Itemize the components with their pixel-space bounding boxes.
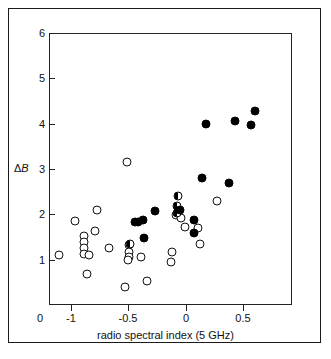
data-point-open-circle <box>195 239 204 248</box>
y-axis-title: ΔB <box>14 162 29 174</box>
data-point-open-circle <box>168 247 177 256</box>
data-point-open-circle <box>92 206 101 215</box>
data-point-open-circle <box>143 276 152 285</box>
y-tick-label: 5 <box>25 72 45 84</box>
y-tick-label: 4 <box>25 118 45 130</box>
data-point-filled-circle <box>138 216 147 225</box>
data-point-filled-circle <box>246 120 255 129</box>
y-tick-label: 2 <box>25 208 45 220</box>
data-point-open-circle <box>137 252 146 261</box>
figure-container: 6 5 4 3 2 1 0 -1 -0.5 0 0.5 ΔB radio spe… <box>0 0 331 359</box>
data-point-open-circle <box>180 223 189 232</box>
data-point-filled-circle <box>139 233 148 242</box>
data-points-layer <box>49 33 292 305</box>
x-tick <box>71 305 72 311</box>
y-tick-label: 1 <box>25 254 45 266</box>
data-point-filled-circle <box>189 216 198 225</box>
data-point-open-circle <box>167 257 176 266</box>
data-point-filled-circle <box>251 106 260 115</box>
data-point-filled-circle <box>197 174 206 183</box>
data-point-open-circle <box>90 226 99 235</box>
y-axis-title-symbol: B <box>21 162 28 174</box>
x-tick <box>186 305 187 311</box>
data-point-open-circle <box>55 251 64 260</box>
data-point-half-filled-circle <box>173 192 182 201</box>
data-point-open-circle <box>122 158 131 167</box>
data-point-filled-circle <box>225 179 234 188</box>
data-point-filled-circle <box>151 206 160 215</box>
data-point-filled-circle <box>176 205 185 214</box>
x-tick <box>128 305 129 311</box>
x-tick-label: 0.5 <box>225 312 261 324</box>
data-point-open-circle <box>105 243 114 252</box>
data-point-open-circle <box>212 196 221 205</box>
x-tick-label: -0.5 <box>110 312 146 324</box>
x-tick-label: 0 <box>168 312 204 324</box>
x-tick-label: -1 <box>53 312 89 324</box>
data-point-half-filled-circle <box>126 240 135 249</box>
data-point-open-circle <box>71 217 80 226</box>
data-point-filled-circle <box>230 117 239 126</box>
data-point-filled-circle <box>202 119 211 128</box>
data-point-open-circle <box>123 255 132 264</box>
data-point-open-circle <box>121 283 130 292</box>
data-point-filled-circle <box>189 229 198 238</box>
y-tick-label: 6 <box>25 27 45 39</box>
x-axis-title: radio spectral index (5 GHz) <box>0 329 331 341</box>
x-tick <box>243 305 244 311</box>
data-point-open-circle <box>82 270 91 279</box>
axis-origin-label: 0 <box>37 312 43 324</box>
data-point-open-circle <box>84 251 93 260</box>
